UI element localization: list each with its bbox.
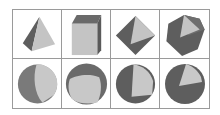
sphere-cube-icon — [62, 59, 110, 108]
sphere-octahedral-icon — [111, 59, 159, 108]
sphere-icosahedral-icon — [160, 59, 209, 108]
tetrahedron-icon — [13, 10, 61, 58]
icosahedron-icon — [160, 10, 209, 58]
polyhedra-diagram-grid — [12, 9, 210, 109]
cell-sphere-octahedral — [111, 59, 160, 108]
cube-icon — [62, 10, 110, 58]
cell-sphere-cube — [62, 59, 111, 108]
cell-octahedron — [111, 10, 160, 59]
cell-sphere-tetrahedral — [13, 59, 62, 108]
sphere-tetrahedral-icon — [13, 59, 61, 108]
cell-cube — [62, 10, 111, 59]
octahedron-icon — [111, 10, 159, 58]
cell-tetrahedron — [13, 10, 62, 59]
cell-sphere-icosahedral — [160, 59, 209, 108]
cell-icosahedron — [160, 10, 209, 59]
